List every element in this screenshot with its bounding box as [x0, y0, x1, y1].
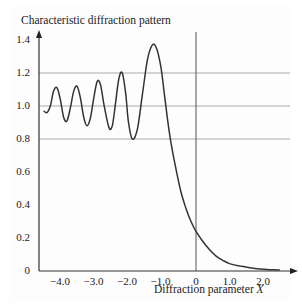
plot-area: [0, 0, 302, 308]
x-tick-label: −2.0: [112, 275, 142, 287]
y-tick-label: 1.0: [8, 99, 30, 111]
x-axis-arrow-icon: [290, 268, 298, 274]
y-tick-label: 0.8: [8, 132, 30, 144]
y-axis-arrow-icon: [36, 30, 42, 38]
diffraction-curve: [44, 44, 280, 270]
x-axis-title: Diffraction parameter X: [154, 283, 264, 295]
gridlines: [39, 73, 290, 139]
x-tick-label: −4.0: [45, 275, 75, 287]
x-tick-label: −3.0: [79, 275, 109, 287]
y-tick-label: 1.2: [8, 66, 30, 78]
x-axis-variable: X: [257, 283, 264, 295]
y-tick-label: 1.4: [8, 33, 30, 45]
diffraction-chart: Characteristic diffraction pattern 00.20…: [0, 0, 302, 308]
x-axis-title-text: Diffraction parameter: [154, 283, 257, 295]
y-tick-label: 0.4: [8, 198, 30, 210]
y-tick-label: 0: [8, 264, 30, 276]
y-tick-label: 0.6: [8, 165, 30, 177]
y-tick-label: 0.2: [8, 231, 30, 243]
